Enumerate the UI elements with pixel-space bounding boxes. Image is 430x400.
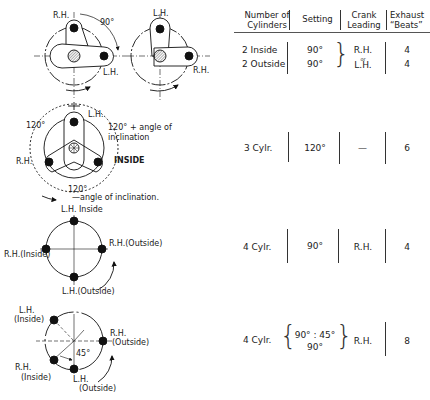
divider xyxy=(287,229,288,263)
header-beats: Exhaust “Beats” xyxy=(390,10,430,30)
label-rh2: R.H. xyxy=(193,66,209,75)
label-90: 90° xyxy=(100,18,114,27)
label-inside: INSIDE xyxy=(114,156,145,165)
label-rh: R.H. xyxy=(53,11,69,20)
label-4cyl45-lh-top-sub: (Inside) xyxy=(14,315,44,324)
divider xyxy=(385,42,386,74)
label-4cyl45-rh-left-sub: (Inside) xyxy=(21,373,51,382)
label-45: 45° xyxy=(76,349,90,358)
divider xyxy=(289,10,290,30)
label-lh: L.H. xyxy=(103,68,118,77)
header-crank-l1: Crank xyxy=(344,10,384,20)
divider xyxy=(340,10,341,30)
divider xyxy=(338,229,339,263)
divider xyxy=(386,10,387,30)
header-setting: Setting xyxy=(295,14,340,24)
row1-beats-1: 4 xyxy=(400,45,414,55)
label-4cyl45-lh-top: L.H. xyxy=(19,306,34,315)
header-beats-l2: “Beats” xyxy=(390,20,430,30)
label-plus-angle: + angle of xyxy=(130,123,172,132)
label-4cyl45-rh-right-sub: (Outside) xyxy=(112,338,149,347)
header-rule xyxy=(234,32,430,33)
row4-setting-1: 90° : 45° xyxy=(290,330,340,340)
row4-crank: R.H. xyxy=(348,336,378,346)
label-4cyl45-rh-right: R.H. xyxy=(110,329,126,338)
row3-crank: R.H. xyxy=(348,242,378,252)
row3-beats: 4 xyxy=(400,242,414,252)
row4-beats: 8 xyxy=(400,336,414,346)
row2-crank: — xyxy=(350,143,375,153)
label-4cyl-right: R.H.(Outside) xyxy=(109,239,162,248)
four-cylinder-90-crank xyxy=(40,215,114,290)
divider xyxy=(385,322,386,356)
header-beats-l1: Exhaust xyxy=(390,10,430,20)
row2-beats: 6 xyxy=(400,143,414,153)
divider xyxy=(287,42,288,74)
label-minus-angle: —angle of inclination. xyxy=(72,193,159,202)
header-crank: Crank Leading xyxy=(344,10,384,30)
label-4cyl-bottom: L.H.(Outside) xyxy=(62,287,115,296)
row4-cyl: 4 Cylr. xyxy=(243,335,271,345)
row1-cyl-1: 2 Inside xyxy=(242,45,277,55)
label-120-left: 120° xyxy=(26,121,45,130)
label-4cyl45-lh-bottom-sub: (Outside) xyxy=(79,384,116,393)
two-cylinder-crank-right xyxy=(128,14,210,100)
row1-crank-2: L.H. xyxy=(348,60,378,70)
four-cylinder-45-crank xyxy=(36,312,112,382)
label-120-right: 120° xyxy=(108,123,127,132)
label-4cyl45-lh-bottom: L.H. xyxy=(73,375,88,384)
label-3cyl-lh: L.H. xyxy=(88,110,103,119)
label-4cyl-left: R.H.(Inside) xyxy=(4,250,50,259)
header-crank-l2: Leading xyxy=(344,20,384,30)
label-inclination: inclination xyxy=(108,133,149,142)
row1-setting-2: 90° xyxy=(300,59,330,69)
label-lh2: L.H. xyxy=(153,9,168,18)
row1-beats-2: 4 xyxy=(400,59,414,69)
divider xyxy=(385,132,386,164)
label-4cyl45-rh-left: R.H. xyxy=(15,363,31,372)
label-4cyl-top: L.H. Inside xyxy=(61,205,103,214)
row1-cyl-2: 2 Outside xyxy=(242,59,285,69)
row3-cyl: 4 Cylr. xyxy=(243,242,271,252)
divider xyxy=(288,132,289,162)
divider xyxy=(339,132,340,164)
row2-setting: 120° xyxy=(300,143,330,153)
row4-setting-2: 90° xyxy=(290,342,340,352)
row2-cyl: 3 Cylr. xyxy=(244,143,272,153)
divider xyxy=(385,229,386,263)
row3-setting: 90° xyxy=(300,241,330,251)
row1-setting-1: 90° xyxy=(300,45,330,55)
label-3cyl-rh: R.H. xyxy=(16,157,32,166)
